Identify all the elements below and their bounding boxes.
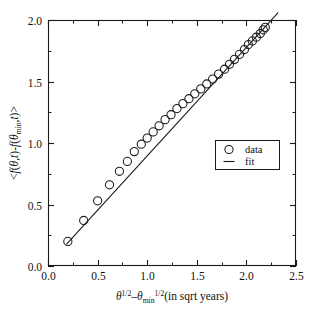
legend[interactable]: data fit — [216, 141, 280, 170]
y-title-sub: min — [14, 122, 23, 134]
y-tick-label: 0.5 — [28, 200, 43, 212]
legend-label-data: data — [245, 144, 263, 155]
figure-container: 0.00.51.01.52.02.5 0.00.51.01.52.0 data … — [0, 0, 315, 315]
legend-label-fit: fit — [245, 156, 254, 167]
y-tick-label: 2.0 — [28, 15, 43, 27]
y-tick-label: 1.0 — [28, 138, 43, 150]
x-axis-title: θ1/2–θmin1/2(in sqrt years) — [116, 289, 228, 305]
x-tick-label: 0.0 — [41, 270, 56, 282]
y-axis-title: <f(θ,t)-f(θmin,t)> — [8, 106, 23, 180]
x-tick-label: 2.0 — [239, 270, 254, 282]
x-title-units: (in sqrt years) — [164, 290, 228, 303]
y-tick-label: 0.0 — [28, 261, 43, 273]
y-tick-label: 1.5 — [28, 77, 43, 89]
svg-text:<f(θ,t)-f(θmin,t)>: <f(θ,t)-f(θmin,t)> — [8, 106, 23, 180]
y-title-close: > — [8, 106, 20, 113]
x-title-exp1: 1/2 — [122, 289, 132, 298]
x-tick-label: 2.5 — [289, 270, 304, 282]
x-title-sub: min — [143, 296, 155, 305]
x-title-exp2: 1/2 — [155, 289, 165, 298]
svg-text:θ1/2–θmin1/2(in sqrt years): θ1/2–θmin1/2(in sqrt years) — [116, 289, 228, 305]
scatter-plot: 0.00.51.01.52.02.5 0.00.51.01.52.0 data … — [0, 0, 315, 315]
x-tick-label: 1.0 — [140, 270, 155, 282]
x-axis-tick-labels: 0.00.51.01.52.02.5 — [41, 270, 304, 282]
x-tick-label: 0.5 — [91, 270, 106, 282]
x-tick-label: 1.5 — [190, 270, 205, 282]
y-axis-tick-labels: 0.00.51.01.52.0 — [28, 15, 43, 273]
